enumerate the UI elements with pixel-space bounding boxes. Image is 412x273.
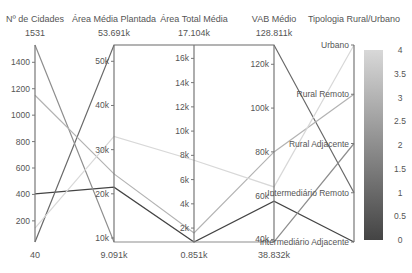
category-label: Urbano — [321, 40, 349, 50]
tick-label: 600 — [16, 163, 30, 173]
axis-title: Área Média Plantada — [72, 14, 156, 24]
tick-label: 120k — [251, 59, 270, 69]
axis-max-label: 17.104k — [178, 28, 211, 38]
category-label: Intermediário Remoto — [267, 188, 349, 198]
colorbar-tick-label: 4 — [398, 45, 403, 55]
tick-label: 20k — [95, 189, 109, 199]
axis-min-label: 38.832k — [258, 250, 291, 260]
colorbar-tick-label: 3.5 — [394, 69, 406, 79]
tick-label: 30k — [95, 145, 109, 155]
colorbar-tick-label: 0.5 — [394, 211, 406, 221]
axis-title: Tipologia Rural/Urbano — [308, 14, 400, 24]
tick-label: 14k — [175, 78, 189, 88]
tick-label: 400 — [16, 189, 30, 199]
category-label: Intermediário Adjacente — [260, 237, 350, 247]
colorbar-gradient — [364, 50, 383, 240]
tick-label: 4k — [180, 199, 190, 209]
axis[interactable]: Área Média Plantada53.691k9.091k10k20k30… — [72, 14, 156, 260]
colorbar-tick-label: 0 — [398, 235, 403, 245]
colorbar-tick-label: 3 — [398, 93, 403, 103]
colorbar-tick-label: 2.5 — [394, 116, 406, 126]
tick-label: 12k — [175, 102, 189, 112]
axis-title: VAB Médio — [252, 14, 296, 24]
axis-title: Nº de Cidades — [6, 14, 64, 24]
tick-label: 16k — [175, 53, 189, 63]
axis[interactable]: Área Total Média17.104k0.851k2k4k6k8k10k… — [160, 14, 227, 260]
axis-min-label: 0.851k — [180, 250, 208, 260]
axis-min-label: 9.091k — [100, 250, 128, 260]
tick-label: 200 — [16, 216, 30, 226]
tick-label: 6k — [180, 175, 190, 185]
tick-label: 1400 — [11, 57, 30, 67]
axis-max-label: 1531 — [25, 28, 45, 38]
tick-label: 1200 — [11, 84, 30, 94]
axis[interactable]: Nº de Cidades153140200400600800100012001… — [6, 14, 64, 260]
axis-min-label: 40 — [30, 250, 40, 260]
colorbar: 00.511.522.533.54 — [364, 45, 406, 245]
colorbar-tick-label: 1.5 — [394, 164, 406, 174]
colorbar-tick-label: 1 — [398, 188, 403, 198]
tick-label: 2k — [180, 223, 190, 233]
axis-max-label: 53.691k — [98, 28, 131, 38]
tick-label: 80k — [255, 147, 269, 157]
tick-label: 40k — [95, 100, 109, 110]
tick-label: 1000 — [11, 110, 30, 120]
tick-label: 10k — [175, 126, 189, 136]
category-label: Rural Remoto — [297, 89, 350, 99]
axis-max-label: 128.811k — [256, 28, 293, 38]
category-label: Rural Adjacente — [289, 139, 349, 149]
axis-title: Área Total Média — [160, 14, 227, 24]
parallel-coordinates-chart: Nº de Cidades153140200400600800100012001… — [0, 0, 412, 273]
colorbar-tick-label: 2 — [398, 140, 403, 150]
tick-label: 8k — [180, 150, 190, 160]
tick-label: 800 — [16, 137, 30, 147]
tick-label: 10k — [95, 233, 109, 243]
tick-label: 50k — [95, 56, 109, 66]
tick-label: 100k — [251, 103, 270, 113]
